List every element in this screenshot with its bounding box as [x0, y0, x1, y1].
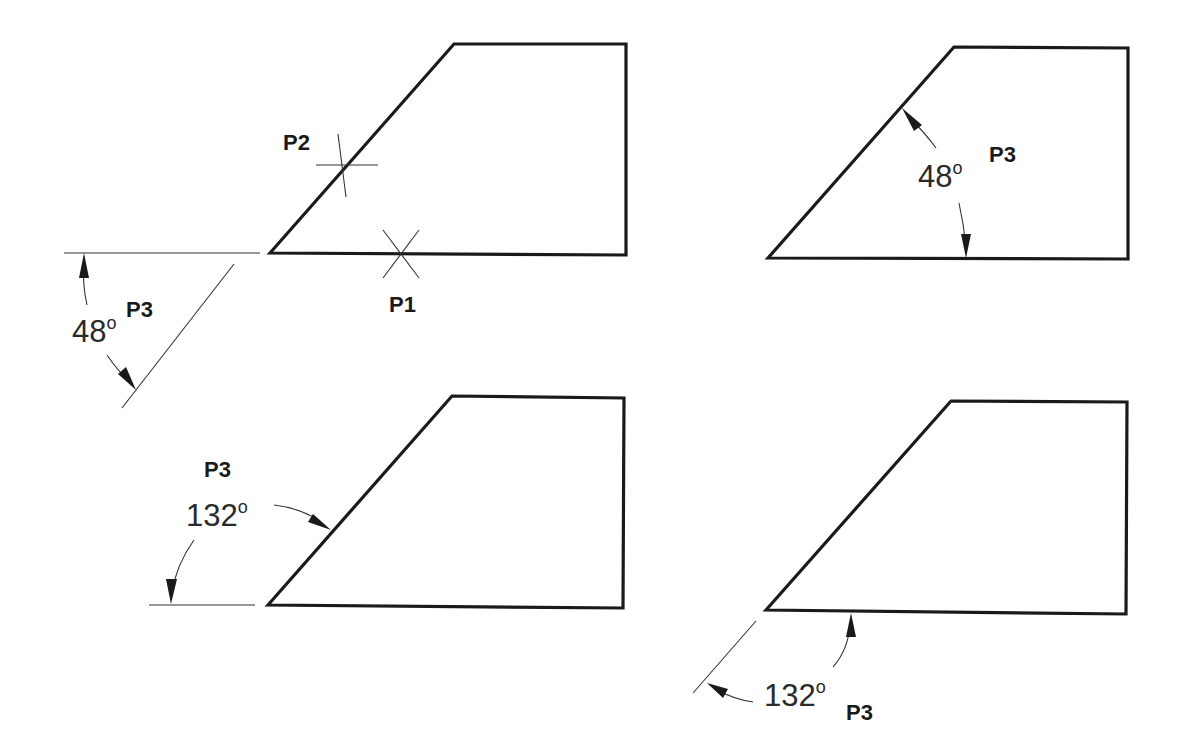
panel-bottom-left: 132o P3: [149, 396, 624, 608]
extension-line-angled: [693, 621, 756, 693]
p1-label: P1: [389, 292, 416, 317]
panel-top-left: P2 P1 48o P3: [64, 44, 626, 408]
arrowhead-up-icon: [846, 613, 856, 637]
dimension-text-48: 48o: [918, 158, 963, 194]
arrowhead-down-icon: [961, 234, 971, 258]
p2-label: P2: [283, 130, 310, 155]
p3-label: P3: [126, 297, 153, 322]
p2-marker-icon: [316, 134, 378, 197]
panel-top-right: 48o P3: [768, 47, 1128, 259]
arrowhead-down-icon: [166, 579, 177, 604]
trapezoid-shape: [766, 401, 1127, 614]
dimension-text-48: 48o: [72, 313, 117, 349]
p3-label: P3: [204, 457, 231, 482]
trapezoid-shape: [268, 396, 624, 608]
p3-label: P3: [989, 142, 1016, 167]
extension-line-angled: [122, 264, 234, 408]
dimension-text-132: 132o: [764, 677, 826, 713]
dimension-text-132: 132o: [186, 497, 248, 533]
p3-label: P3: [846, 700, 873, 725]
arrowhead-up-icon: [79, 253, 89, 278]
diagram-canvas: P2 P1 48o P3 48o P3 132o P3: [0, 0, 1184, 752]
trapezoid-shape: [270, 44, 626, 255]
panel-bottom-right: 132o P3: [693, 401, 1127, 725]
arrowhead-left-icon: [707, 683, 728, 698]
arrowhead-down-icon: [118, 367, 136, 390]
trapezoid-shape: [768, 47, 1128, 259]
